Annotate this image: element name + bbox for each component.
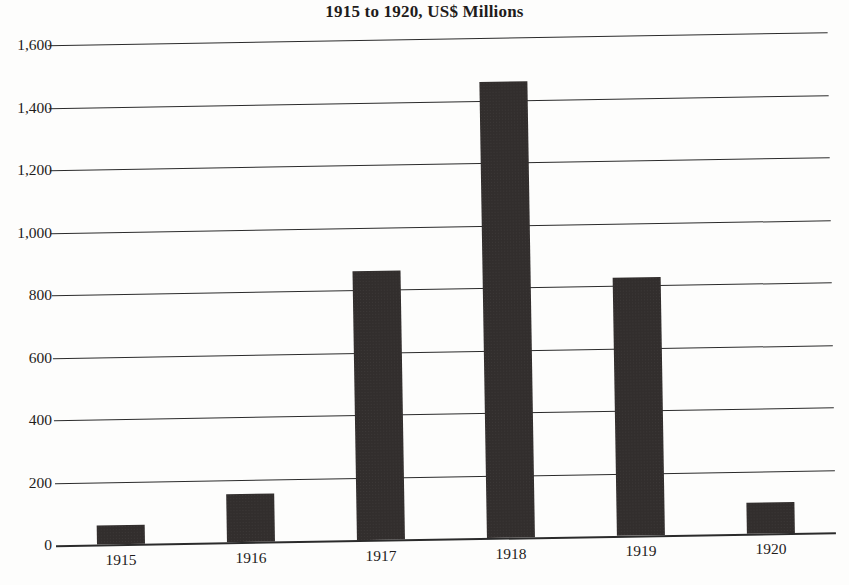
x-axis-tick-label: 1919 [596, 542, 686, 560]
bar [746, 502, 795, 534]
y-axis-tick-label: 800 [0, 286, 52, 304]
y-axis-tick-label: 1,200 [0, 161, 52, 179]
bar [613, 277, 665, 536]
y-axis-tick-label: 200 [0, 474, 52, 492]
bars-group [48, 32, 836, 545]
bar-chart-figure: 1915 to 1920, US$ Millions 0200400600800… [0, 0, 849, 585]
x-axis-tick-label: 1915 [76, 551, 166, 569]
y-axis-tick-label: 0 [0, 536, 52, 554]
plot-area: 02004006008001,0001,2001,4001,600 191519… [0, 0, 849, 585]
bar [353, 271, 405, 541]
y-axis-tick-label: 1,400 [0, 99, 52, 117]
bar [226, 493, 275, 542]
x-axis-tick-label: 1920 [726, 540, 816, 558]
y-axis-tick-label: 1,600 [0, 36, 52, 54]
y-axis-tick-label: 1,000 [0, 224, 52, 242]
bar [97, 525, 145, 545]
y-axis-tick-label: 400 [0, 411, 52, 429]
bar [479, 81, 535, 538]
y-axis-tick-label: 600 [0, 349, 52, 367]
x-axis-tick-label: 1917 [336, 547, 426, 565]
x-axis-tick-label: 1918 [466, 545, 556, 563]
x-axis-tick-label: 1916 [206, 549, 296, 567]
